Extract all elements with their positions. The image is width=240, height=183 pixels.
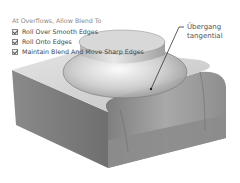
- blend-overflow-options: At Overflows, Allow Blend To Roll Over S…: [12, 16, 144, 57]
- option-label: Maintain Blend And Move Sharp Edges: [22, 47, 144, 57]
- callout-line-2: tangential: [187, 32, 223, 41]
- checkbox-checked-icon[interactable]: [12, 49, 18, 55]
- option-roll-over-smooth-edges[interactable]: Roll Over Smooth Edges: [12, 27, 144, 37]
- checkbox-checked-icon[interactable]: [12, 29, 18, 35]
- options-heading: At Overflows, Allow Blend To: [12, 16, 144, 26]
- callout-line-1: Übergang: [187, 23, 223, 32]
- callout-label: Übergang tangential: [187, 23, 223, 41]
- option-label: Roll Over Smooth Edges: [22, 27, 98, 37]
- option-maintain-blend[interactable]: Maintain Blend And Move Sharp Edges: [12, 47, 144, 57]
- option-label: Roll Onto Edges: [22, 37, 72, 47]
- checkbox-checked-icon[interactable]: [12, 39, 18, 45]
- option-roll-onto-edges[interactable]: Roll Onto Edges: [12, 37, 144, 47]
